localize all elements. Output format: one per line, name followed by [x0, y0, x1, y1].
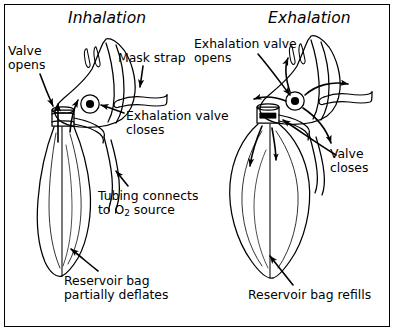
tubing-line-2-suffix: source	[130, 202, 175, 217]
mask-assembly-inhalation	[37, 39, 167, 277]
callout-leaders	[40, 54, 336, 285]
oxygen-mask-diagram: Inhalation Exhalation Valve opens Mask s…	[0, 0, 394, 331]
panel-title-inhalation: Inhalation	[68, 9, 146, 27]
label-mask-strap: Mask strap	[118, 51, 186, 65]
label-reservoir-bag-refills: Reservoir bag refills	[248, 288, 371, 302]
tubing-line-1: Tubing connects	[98, 188, 198, 203]
tubing-line-2-prefix: to O	[98, 202, 124, 217]
label-exhalation-valve-closes: Exhalation valve closes	[126, 109, 229, 137]
label-valve-opens: Valve opens	[8, 44, 45, 72]
label-tubing-o2-source: Tubing connectsto O2 source	[98, 189, 198, 220]
label-reservoir-bag-partially-deflates: Reservoir bag partially deflates	[64, 274, 168, 302]
label-exhalation-valve-opens: Exhalation valve opens	[194, 37, 297, 65]
label-valve-closes: Valve closes	[330, 147, 368, 175]
panel-title-exhalation: Exhalation	[268, 9, 351, 27]
